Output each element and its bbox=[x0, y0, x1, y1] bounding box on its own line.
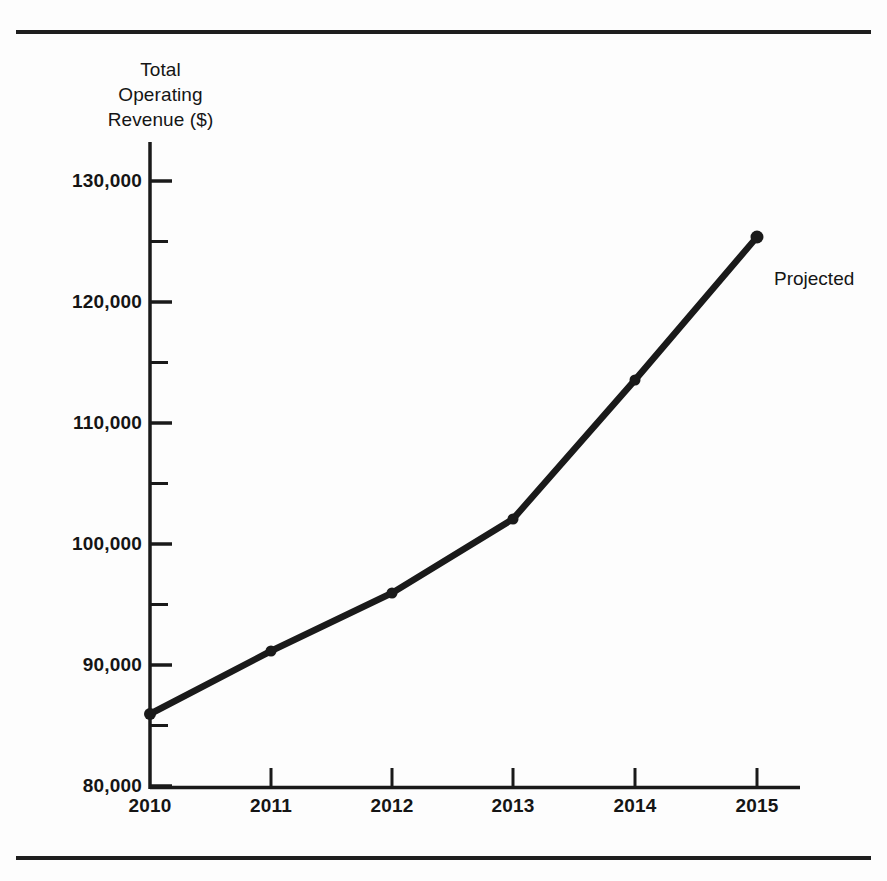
data-point-markers bbox=[144, 231, 764, 721]
data-point-2011 bbox=[266, 646, 277, 657]
data-point-2014 bbox=[630, 375, 641, 386]
data-point-2012 bbox=[387, 588, 398, 599]
data-line-total-operating-revenue bbox=[150, 237, 757, 714]
bottom-divider-rule bbox=[16, 856, 871, 860]
data-point-2010 bbox=[144, 708, 156, 720]
figure-container: Total Operating Revenue ($) 130,000 120,… bbox=[0, 0, 887, 881]
data-point-2015 bbox=[751, 231, 764, 244]
x-axis-ticks bbox=[271, 768, 757, 787]
plot-area bbox=[0, 0, 887, 881]
data-point-2013 bbox=[508, 514, 519, 525]
y-axis-minor-ticks bbox=[150, 242, 168, 726]
